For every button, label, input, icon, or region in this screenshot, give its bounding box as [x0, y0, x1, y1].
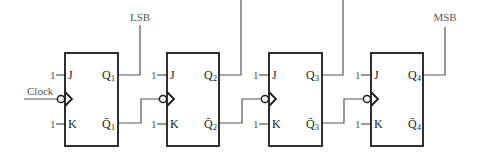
ff1-q-label: Q	[102, 68, 111, 82]
ff4-j-label: J	[374, 68, 379, 82]
ff2-k-const: 1	[151, 118, 157, 130]
msb-output-wire	[423, 27, 445, 75]
flip-flop-3	[269, 53, 322, 146]
ff1-k-label: K	[68, 117, 77, 131]
clock-label: Clock	[27, 85, 54, 97]
ff4-q-index: 4	[417, 74, 421, 83]
ff2-qbar-label: Q̄	[204, 117, 213, 131]
ff1-qbar-index: 1	[111, 123, 115, 132]
flip-flop-2	[167, 53, 219, 146]
ff4-j-const: 1	[355, 69, 361, 81]
ff2-k-label: K	[170, 117, 179, 131]
lsb-label: LSB	[130, 11, 150, 23]
ff1-j-const: 1	[50, 69, 56, 81]
ff2-j-const: 1	[151, 69, 157, 81]
ff2-j-label: J	[170, 68, 175, 82]
q3-output-wire	[322, 0, 343, 75]
ff4-q-label: Q	[408, 68, 417, 82]
msb-label: MSB	[433, 11, 456, 23]
inversion-bubble-icon	[159, 95, 166, 102]
ff3-j-const: 1	[253, 69, 259, 81]
ff3-q-index: 3	[315, 74, 319, 83]
inversion-bubble-icon	[363, 95, 370, 102]
ff3-k-const: 1	[253, 118, 259, 130]
flip-flop-4	[371, 53, 423, 146]
ff3-qbar-index: 3	[315, 123, 319, 132]
ff1-k-const: 1	[50, 118, 56, 130]
ff3-k-label: K	[272, 117, 281, 131]
lsb-output-wire	[118, 25, 140, 75]
inversion-bubble-icon	[261, 95, 268, 102]
ff3-qbar-label: Q̄	[306, 117, 315, 131]
ripple-counter-diagram: LSB MSB Clock 1 1 1 1 1 1 1 1 J K Q 1 Q̄…	[0, 0, 480, 156]
ff4-qbar-index: 4	[417, 123, 421, 132]
ff1-j-label: J	[68, 68, 73, 82]
ff4-k-const: 1	[355, 118, 361, 130]
ff4-k-label: K	[374, 117, 383, 131]
ff1-qbar-label: Q̄	[102, 117, 111, 131]
ff3-q-label: Q	[306, 68, 315, 82]
ff3-j-label: J	[272, 68, 277, 82]
ff2-q-label: Q	[204, 68, 213, 82]
ff2-qbar-index: 2	[213, 123, 217, 132]
ff2-q-index: 2	[213, 74, 217, 83]
flip-flop-1	[65, 53, 118, 146]
q2-output-wire	[219, 0, 241, 75]
inversion-bubble-icon	[57, 95, 64, 102]
ff1-q-index: 1	[111, 74, 115, 83]
ff4-qbar-label: Q̄	[408, 117, 417, 131]
